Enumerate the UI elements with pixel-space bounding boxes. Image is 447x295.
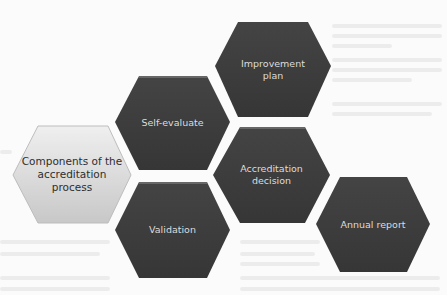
annual-report-label: Annual report: [316, 177, 430, 272]
improvement-plan-label: Improvement plan: [215, 22, 331, 117]
validation-label: Validation: [115, 182, 230, 278]
accreditation-decision-label: Accreditation decision: [213, 127, 330, 223]
components-label: Components of the accreditation process: [13, 126, 131, 223]
